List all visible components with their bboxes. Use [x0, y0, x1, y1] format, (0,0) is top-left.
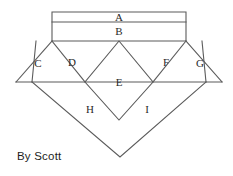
region-label-a: A	[115, 11, 123, 23]
region-label-c: C	[34, 57, 41, 69]
region-label-g: G	[196, 57, 204, 69]
region-label-d: D	[68, 56, 76, 68]
region-label-e: E	[116, 76, 123, 88]
credit-text: By Scott	[17, 150, 61, 162]
region-label-i: I	[145, 103, 149, 115]
region-label-f: F	[163, 56, 169, 68]
region-label-h: H	[86, 103, 94, 115]
region-label-b: B	[115, 25, 122, 37]
geometry-diagram: ABCDEFGHI By Scott	[0, 0, 233, 176]
